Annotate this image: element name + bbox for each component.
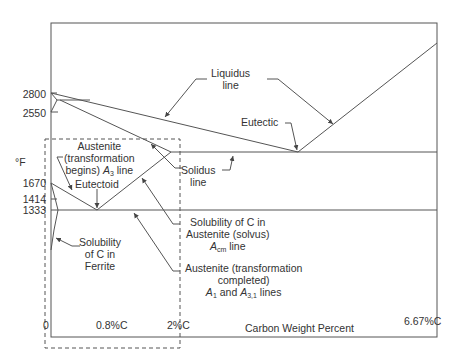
acm-leader [142,178,180,224]
ferrite-leader [56,238,80,246]
x-tick-2: 2%C [167,319,190,331]
liquidus-line-right [298,43,437,152]
x-tick-6.67: 6.67%C [404,315,441,327]
delta-region [51,93,57,112]
eutectic-label: Eutectic [241,116,278,128]
y-tick-2550: 2550 [12,107,46,119]
transformation-completed-label: Austenite (transformation completed) A1 … [185,262,302,302]
liquidus-leader-left [165,79,207,117]
solidus-leader-right [222,156,233,170]
austenite-begins-label: Austenite (transformation begins) A3 lin… [64,140,135,180]
solvus-label: Solubility of C in Austenite (solvus) Ac… [186,216,269,256]
x-tick-0: 0 [43,319,49,331]
y-tick-2800: 2800 [12,88,46,100]
x-tick-0.8: 0.8%C [96,319,128,331]
y-tick-1670: 1670 [12,177,46,189]
y-tick-1333: 1333 [12,204,46,216]
completed-leader [134,213,180,271]
eutectic-leader [285,123,297,150]
liquidus-label: Liquidus line [211,67,250,91]
eutectoid-label: Eutectoid [75,178,119,190]
solidus-label: Solidus line [181,164,215,188]
y-axis-unit: °F [15,156,26,168]
ferrite-solubility-label: Solubility of C in Ferrite [79,236,121,272]
x-axis-title: Carbon Weight Percent [245,322,354,334]
ferrite-solubility-curve [51,183,58,250]
